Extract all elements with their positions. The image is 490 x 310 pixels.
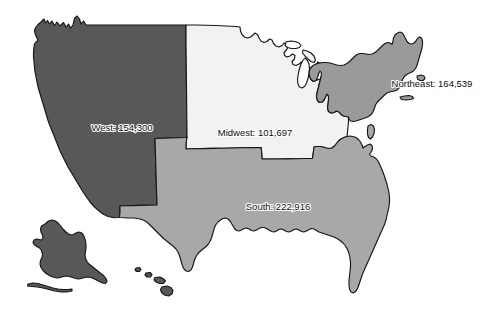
map-canvas: West: 154,300 Midwest: 101,697 South: 22… — [0, 0, 490, 310]
delmarva-peninsula — [368, 125, 375, 140]
inset-hawaii[interactable] — [135, 268, 173, 297]
label-northeast: Northeast: 164,539 — [392, 78, 473, 89]
label-west: West: 154,300 — [91, 122, 152, 133]
label-south: South: 222,916 — [246, 201, 310, 212]
us-region-map-figure: West: 154,300 Midwest: 101,697 South: 22… — [0, 0, 490, 310]
hawaii-big-island — [161, 286, 174, 296]
lake-superior — [285, 41, 301, 49]
hawaii-molokai-maui — [154, 277, 166, 284]
alaska-aleutian-tail — [28, 283, 73, 292]
hawaii-kauai — [135, 268, 141, 272]
long-island — [400, 96, 414, 101]
inset-alaska[interactable] — [33, 220, 107, 284]
region-south[interactable] — [120, 136, 390, 293]
hawaii-oahu — [145, 273, 152, 278]
label-midwest: Midwest: 101,697 — [218, 127, 292, 138]
